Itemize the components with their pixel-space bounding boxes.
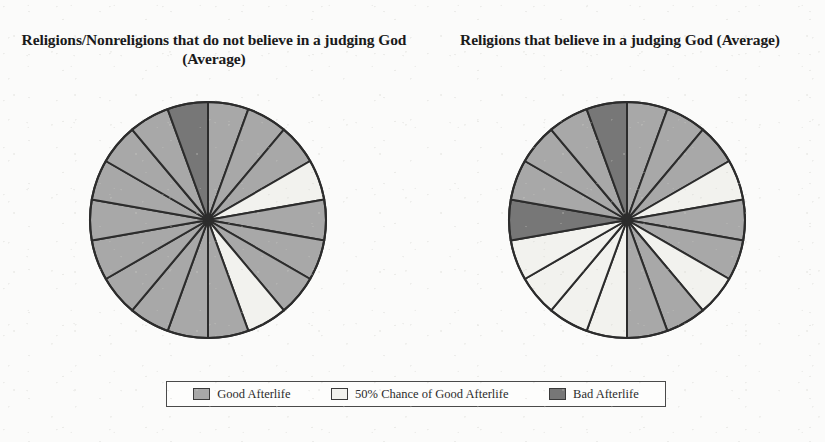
chart-title-right: Religions that believe in a judging God … — [424, 30, 816, 49]
pie-chart-no-judging-god — [83, 84, 333, 356]
legend-label-good-afterlife: Good Afterlife — [217, 387, 290, 402]
legend-swatch-bad-afterlife — [549, 388, 566, 400]
pie-chart-judging-god — [502, 84, 752, 356]
chart-legend: Good Afterlife 50% Chance of Good Afterl… — [166, 381, 666, 407]
legend-item-good-afterlife: Good Afterlife — [193, 387, 290, 402]
legend-item-fifty-percent-chance: 50% Chance of Good Afterlife — [331, 387, 508, 402]
pie-slices-right — [509, 102, 745, 338]
legend-label-bad-afterlife: Bad Afterlife — [573, 387, 639, 402]
figure-canvas: Religions/Nonreligions that do not belie… — [0, 0, 825, 442]
legend-swatch-fifty-percent-chance — [331, 388, 348, 400]
pie-slices-left — [90, 102, 326, 338]
legend-swatch-good-afterlife — [193, 388, 210, 400]
pie-svg-left — [83, 84, 333, 356]
legend-item-bad-afterlife: Bad Afterlife — [549, 387, 639, 402]
legend-label-fifty-percent-chance: 50% Chance of Good Afterlife — [355, 387, 508, 402]
chart-title-left: Religions/Nonreligions that do not belie… — [14, 30, 414, 68]
pie-svg-right — [502, 84, 752, 356]
